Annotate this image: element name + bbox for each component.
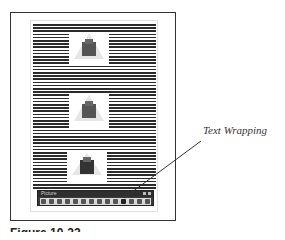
text-line	[33, 53, 69, 55]
text-line	[33, 146, 156, 148]
text-line	[107, 162, 156, 164]
text-line	[33, 46, 69, 48]
text-line	[33, 69, 156, 71]
wrapped-picture[interactable]	[71, 31, 107, 65]
text-line	[109, 123, 156, 125]
text-wrapping-icon[interactable]	[121, 199, 126, 204]
wrapped-picture[interactable]	[69, 151, 105, 181]
text-line	[33, 72, 156, 74]
text-line	[33, 75, 156, 77]
text-line	[33, 133, 156, 135]
text-line	[33, 117, 69, 119]
text-line	[33, 168, 67, 170]
wrapped-picture[interactable]	[71, 93, 107, 127]
text-line	[109, 53, 156, 55]
text-line	[33, 165, 67, 167]
text-line	[33, 82, 156, 84]
text-line	[107, 171, 156, 173]
insert-picture-icon[interactable]	[41, 199, 46, 204]
text-line	[33, 184, 156, 186]
text-line	[109, 56, 156, 58]
text-line	[109, 120, 156, 122]
toolbar-close-icon[interactable]	[148, 192, 151, 195]
toolbar-title-bar[interactable]: Picture	[38, 191, 153, 197]
text-line	[109, 110, 156, 112]
text-line	[109, 40, 156, 42]
text-line	[109, 46, 156, 48]
text-line	[33, 162, 67, 164]
text-line	[109, 114, 156, 116]
more-contrast-icon[interactable]	[57, 199, 62, 204]
text-line	[109, 50, 156, 52]
text-line	[33, 123, 69, 125]
text-line	[33, 110, 69, 112]
text-line	[33, 85, 156, 87]
more-brightness-icon[interactable]	[73, 199, 78, 204]
text-line	[107, 158, 156, 160]
text-line	[33, 107, 69, 109]
document-page	[30, 20, 158, 212]
line-style-icon[interactable]	[105, 199, 110, 204]
text-line	[33, 155, 67, 157]
toolbar-buttons-row	[40, 198, 151, 205]
text-line	[33, 88, 156, 90]
color-icon[interactable]	[49, 199, 54, 204]
toolbar-title: Picture	[41, 190, 57, 197]
text-line	[107, 165, 156, 167]
text-line	[33, 171, 67, 173]
text-line	[33, 43, 69, 45]
format-picture-icon[interactable]	[129, 199, 134, 204]
text-line	[33, 187, 156, 189]
less-contrast-icon[interactable]	[65, 199, 70, 204]
picture-toolbar[interactable]: Picture	[37, 190, 154, 206]
text-line	[109, 34, 156, 36]
callout-label: Text Wrapping	[203, 124, 267, 136]
text-line	[33, 66, 156, 68]
text-line	[33, 27, 156, 29]
text-line	[109, 59, 156, 61]
text-line	[33, 59, 69, 61]
text-line	[33, 34, 69, 36]
text-line	[33, 114, 69, 116]
text-line	[33, 40, 69, 42]
set-transparent-color-icon[interactable]	[137, 199, 142, 204]
text-line	[107, 152, 156, 154]
text-line	[109, 117, 156, 119]
crop-icon[interactable]	[89, 199, 94, 204]
less-brightness-icon[interactable]	[81, 199, 86, 204]
text-line	[33, 50, 69, 52]
text-line	[33, 37, 69, 39]
text-line	[33, 158, 67, 160]
text-line	[109, 37, 156, 39]
compress-pictures-icon[interactable]	[113, 199, 118, 204]
text-line	[109, 43, 156, 45]
text-line	[33, 130, 156, 132]
text-line	[33, 178, 67, 180]
text-line	[33, 62, 69, 64]
text-line	[33, 181, 67, 183]
toolbar-options-icon[interactable]	[143, 192, 146, 195]
text-line	[107, 155, 156, 157]
text-line	[33, 24, 156, 26]
text-line	[33, 142, 156, 144]
text-line	[109, 98, 156, 100]
text-line	[109, 104, 156, 106]
text-line	[107, 178, 156, 180]
text-line	[109, 62, 156, 64]
text-line	[33, 56, 69, 58]
text-line	[107, 181, 156, 183]
text-line	[33, 101, 69, 103]
text-line	[33, 94, 69, 96]
text-line	[109, 126, 156, 128]
text-line	[33, 78, 156, 80]
text-line	[109, 94, 156, 96]
text-line	[33, 120, 69, 122]
text-line	[33, 174, 67, 176]
reset-picture-icon[interactable]	[145, 199, 150, 204]
text-line	[33, 126, 69, 128]
rotate-left-icon[interactable]	[97, 199, 102, 204]
text-line	[107, 168, 156, 170]
text-line	[33, 98, 69, 100]
text-line	[107, 174, 156, 176]
text-line	[33, 139, 156, 141]
